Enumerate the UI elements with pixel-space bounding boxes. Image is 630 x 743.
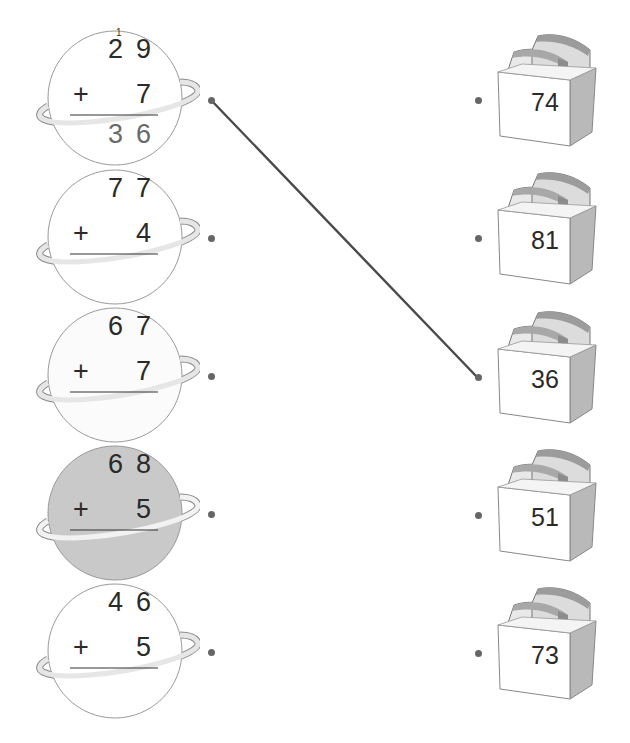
box-value: 81	[510, 228, 580, 253]
problem-dot-3[interactable]	[208, 373, 215, 380]
box-dot-4[interactable]	[475, 512, 482, 519]
answer-digit-tens: 3	[108, 121, 123, 148]
problem-dot-5[interactable]	[208, 649, 215, 656]
plus-sign: +	[73, 634, 89, 661]
top-digit-tens: 2	[108, 36, 123, 63]
top-digit-tens: 6	[108, 451, 123, 478]
top-digit-ones: 8	[136, 451, 151, 478]
connection-line[interactable]	[211, 100, 477, 377]
problem-planet-2: 7 7 + 4	[30, 163, 200, 313]
addend-digit: 7	[136, 358, 151, 385]
answer-box-5: 73	[492, 581, 622, 721]
matching-worksheet: 1 2 9 + 7 3 6 7 7 + 4 6 7 + 7	[0, 0, 630, 743]
top-digit-ones: 9	[136, 36, 151, 63]
problem-dot-4[interactable]	[208, 511, 215, 518]
problem-dot-2[interactable]	[208, 235, 215, 242]
plus-sign: +	[73, 220, 89, 247]
box-dot-2[interactable]	[475, 235, 482, 242]
addend-digit: 5	[136, 496, 151, 523]
answer-digit-ones: 6	[136, 121, 151, 148]
box-value: 51	[510, 505, 580, 530]
problem-planet-3: 6 7 + 7	[30, 301, 200, 451]
problem-planet-1: 1 2 9 + 7 3 6	[30, 24, 200, 174]
answer-box-3: 36	[492, 305, 622, 445]
box-value: 36	[510, 367, 580, 392]
top-digit-ones: 7	[136, 175, 151, 202]
box-dot-5[interactable]	[475, 650, 482, 657]
box-value: 73	[510, 643, 580, 668]
box-dot-3[interactable]	[475, 374, 482, 381]
addend-digit: 5	[136, 634, 151, 661]
problem-planet-4: 6 8 + 5	[30, 439, 200, 589]
top-digit-tens: 7	[108, 175, 123, 202]
problem-dot-1[interactable]	[208, 97, 215, 104]
box-dot-1[interactable]	[475, 97, 482, 104]
answer-box-1: 74	[492, 28, 622, 168]
plus-sign: +	[73, 496, 89, 523]
plus-sign: +	[73, 81, 89, 108]
addend-digit: 4	[136, 220, 151, 247]
addend-digit: 7	[136, 81, 151, 108]
top-digit-ones: 6	[136, 589, 151, 616]
problem-planet-5: 4 6 + 5	[30, 577, 200, 727]
top-digit-tens: 4	[108, 589, 123, 616]
answer-box-2: 81	[492, 166, 622, 306]
plus-sign: +	[73, 358, 89, 385]
box-value: 74	[510, 90, 580, 115]
top-digit-tens: 6	[108, 313, 123, 340]
answer-box-4: 51	[492, 443, 622, 583]
top-digit-ones: 7	[136, 313, 151, 340]
